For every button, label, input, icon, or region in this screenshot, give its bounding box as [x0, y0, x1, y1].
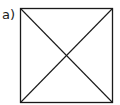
square-diagram — [0, 0, 120, 105]
